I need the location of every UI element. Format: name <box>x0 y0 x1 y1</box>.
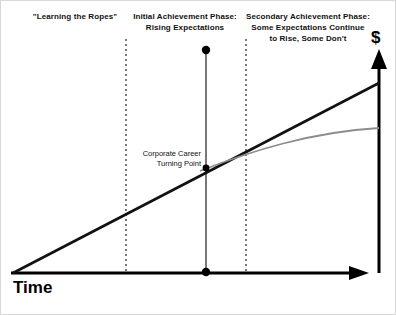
series-flattening-expectations-curve <box>200 128 379 171</box>
career-expectations-diagram: "Learning the Ropes" Initial Achievement… <box>0 0 396 315</box>
y-axis-arrowhead-icon <box>371 49 387 69</box>
series-rising-expectations-line <box>13 83 379 273</box>
turning-point-intersection-dot <box>203 165 210 172</box>
turning-point-marker-bottom-dot <box>202 268 210 276</box>
x-axis-arrowhead-icon <box>349 266 369 280</box>
turning-point-marker-top-dot <box>202 46 210 54</box>
diagram-graphics <box>1 1 396 315</box>
